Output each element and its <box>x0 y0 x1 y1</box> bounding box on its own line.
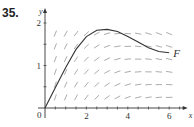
field-segment <box>94 45 99 48</box>
field-segment <box>156 97 162 98</box>
field-segment <box>94 57 99 61</box>
field-segment <box>115 96 121 99</box>
y-axis-arrow <box>43 8 47 13</box>
field-segment <box>135 97 141 99</box>
x-tick-label: 4 <box>126 111 131 121</box>
field-segment <box>135 84 141 85</box>
field-segment <box>74 56 78 61</box>
field-segment <box>145 33 151 35</box>
field-segment <box>64 94 67 100</box>
y-tick-label: 1 <box>37 61 42 71</box>
field-segment <box>94 95 99 100</box>
field-segment <box>166 32 172 35</box>
field-segment <box>64 31 67 37</box>
field-segment <box>156 46 162 48</box>
field-segment <box>64 56 67 62</box>
field-segment <box>166 71 172 72</box>
field-segment <box>74 31 78 36</box>
field-segment <box>54 31 56 37</box>
field-segment <box>84 82 88 87</box>
field-segment <box>104 33 110 35</box>
field-segment <box>145 97 151 98</box>
field-segment <box>74 69 77 74</box>
field-segment <box>125 59 131 60</box>
field-segment <box>64 44 67 50</box>
direction-field <box>54 31 172 101</box>
field-segment <box>105 95 110 99</box>
x-axis-arrow <box>183 106 188 110</box>
field-segment <box>84 69 88 74</box>
field-segment <box>104 83 109 87</box>
field-segment <box>104 70 110 73</box>
field-segment <box>114 58 120 60</box>
field-segment <box>125 84 131 86</box>
field-segment <box>94 82 99 86</box>
field-segment <box>145 59 151 60</box>
field-segment <box>84 44 89 48</box>
curve-label: F <box>172 47 180 59</box>
x-tick-label: 6 <box>167 111 172 121</box>
field-segment <box>54 56 56 62</box>
field-segment <box>94 32 100 35</box>
field-segment <box>104 45 110 47</box>
field-segment <box>54 94 56 100</box>
field-segment <box>84 57 88 62</box>
field-segment <box>54 43 56 49</box>
field-segment <box>84 95 88 100</box>
x-axis-label: x <box>188 111 193 120</box>
field-segment <box>135 72 141 73</box>
field-segment <box>104 58 110 61</box>
field-segment <box>166 45 172 47</box>
field-segment <box>94 70 99 74</box>
x-tick-label: 2 <box>84 111 89 121</box>
field-segment <box>166 58 172 60</box>
field-segment <box>156 72 162 73</box>
direction-field-chart: 24612 F x y 0 <box>0 0 194 127</box>
field-segment <box>156 59 162 60</box>
y-axis-label: y <box>38 7 43 16</box>
axes <box>38 8 188 118</box>
field-segment <box>125 96 131 98</box>
origin-label: 0 <box>37 110 42 120</box>
field-segment <box>74 95 77 101</box>
field-segment <box>114 33 120 34</box>
curve-F <box>45 29 169 108</box>
field-segment <box>74 82 77 87</box>
field-segment <box>54 69 56 75</box>
field-segment <box>64 82 67 88</box>
field-segment <box>156 33 162 35</box>
field-segment <box>114 71 120 73</box>
field-segment <box>135 33 141 34</box>
field-segment <box>135 46 141 47</box>
field-segment <box>115 83 121 86</box>
y-tick-label: 2 <box>37 18 42 28</box>
field-segment <box>114 46 120 47</box>
field-segment <box>125 71 131 72</box>
